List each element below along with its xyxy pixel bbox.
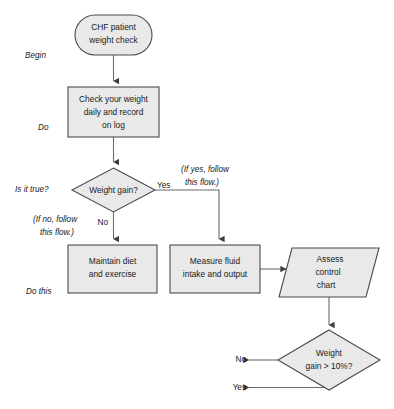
node-weight-gain-pct-line-2: gain > 10%? [306,361,353,371]
annotation-if-yes-line-2: this flow.) [185,178,219,187]
edge-label-yes-top: Yes [157,181,170,190]
node-maintain[interactable]: Maintain diet and exercise [68,245,157,293]
node-assess-chart-line-3: chart [317,280,336,290]
stage-label-do: Do [38,123,49,132]
annotation-if-yes-line-1: (If yes, follow [181,165,230,174]
stage-label-do-this: Do this [26,287,51,296]
node-check-weight-line-2: daily and record [84,107,144,117]
node-measure-fluid-line-2: intake and output [183,269,248,279]
stage-label-begin: Begin [25,51,46,60]
flowchart-canvas: CHF patient weight check Check your weig… [0,0,394,409]
node-check-weight-line-3: on log [102,120,125,130]
edge-yes-to-measure [155,190,219,239]
node-weight-gain-decision[interactable]: Weight gain? [72,168,155,212]
annotation-if-no: (If no, follow this flow.) [33,215,78,237]
edge-label-no-top: No [98,218,109,227]
node-start-line-1: CHF patient [91,22,136,32]
node-weight-gain-label: Weight gain? [89,185,138,195]
node-measure-fluid-line-1: Measure fluid [190,256,241,266]
annotation-if-no-line-1: (If no, follow [33,215,78,224]
annotation-if-yes: (If yes, follow this flow.) [181,165,230,187]
node-start-line-2: weight check [88,35,138,45]
node-weight-gain-pct-shape [278,330,380,390]
node-assess-chart[interactable]: Assess control chart [279,248,379,297]
annotation-if-no-line-2: this flow.) [40,228,74,237]
node-assess-chart-line-2: control [315,267,340,277]
node-weight-gain-pct-line-1: Weight [316,348,343,358]
node-assess-chart-line-1: Assess [317,254,344,264]
node-measure-fluid[interactable]: Measure fluid intake and output [170,245,260,293]
stage-label-is-it-true: Is it true? [15,185,49,194]
node-maintain-line-1: Maintain diet [89,256,137,266]
node-check-weight[interactable]: Check your weight daily and record on lo… [68,87,159,137]
node-start[interactable]: CHF patient weight check [75,15,152,55]
node-check-weight-line-1: Check your weight [79,94,149,104]
node-maintain-line-2: and exercise [89,269,137,279]
node-weight-gain-pct-decision[interactable]: Weight gain > 10%? [278,330,380,390]
flowchart-svg: CHF patient weight check Check your weig… [0,0,394,409]
edge-decision-yes-out [249,388,329,391]
edge-label-yes-bottom: Yes [233,383,246,392]
edge-label-no-bottom: No [236,355,247,364]
